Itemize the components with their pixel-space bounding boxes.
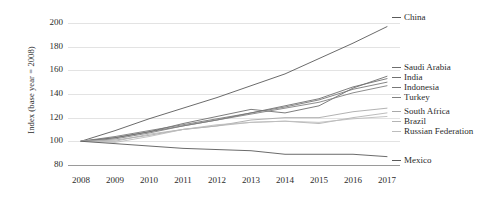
y-tick-label: 200	[30, 18, 63, 27]
legend-line-swatch-icon	[392, 131, 401, 132]
legend-item: Indonesia	[404, 82, 439, 92]
legend: ChinaSaudi ArabiaIndiaIndonesiaTurkeySou…	[404, 0, 499, 200]
legend-label: India	[404, 72, 423, 82]
legend-item: Turkey	[404, 92, 430, 102]
legend-item: Saudi Arabia	[404, 62, 451, 72]
y-tick-label: 120	[30, 113, 63, 122]
legend-line-swatch-icon	[392, 87, 401, 88]
legend-line-swatch-icon	[392, 17, 401, 18]
legend-label: China	[404, 12, 426, 22]
y-tick-label: 80	[30, 160, 63, 169]
legend-label: Mexico	[404, 155, 432, 165]
y-tick-label: 100	[30, 136, 63, 145]
legend-line-swatch-icon	[392, 121, 401, 122]
y-tick-label: 160	[30, 65, 63, 74]
y-tick-label: 140	[30, 89, 63, 98]
y-axis-ticks: 80100120140160180200	[30, 0, 63, 200]
legend-label: South Africa	[404, 106, 450, 116]
legend-item: Russian Federation	[404, 126, 473, 136]
legend-line-swatch-icon	[392, 67, 401, 68]
line-chart: Index (base year = 2008) 801001201401601…	[0, 0, 499, 200]
series-line	[81, 141, 387, 156]
legend-line-swatch-icon	[392, 77, 401, 78]
legend-line-swatch-icon	[392, 160, 401, 161]
y-tick-label: 180	[30, 42, 63, 51]
legend-label: Brazil	[404, 116, 426, 126]
legend-label: Russian Federation	[404, 126, 473, 136]
legend-item: Mexico	[404, 155, 432, 165]
x-axis-ticks: 2008200920102011201220132014201520162017	[68, 175, 400, 189]
legend-item: India	[404, 72, 423, 82]
legend-item: South Africa	[404, 106, 450, 116]
series-line	[81, 79, 387, 142]
series-line	[81, 76, 387, 141]
legend-line-swatch-icon	[392, 97, 401, 98]
legend-line-swatch-icon	[392, 111, 401, 112]
legend-label: Indonesia	[404, 82, 439, 92]
legend-item: China	[404, 12, 426, 22]
legend-item: Brazil	[404, 116, 426, 126]
x-tick-label: 2017	[367, 175, 407, 186]
legend-label: Saudi Arabia	[404, 62, 451, 72]
series-lines	[68, 16, 400, 172]
plot-area	[68, 16, 400, 172]
legend-label: Turkey	[404, 92, 430, 102]
